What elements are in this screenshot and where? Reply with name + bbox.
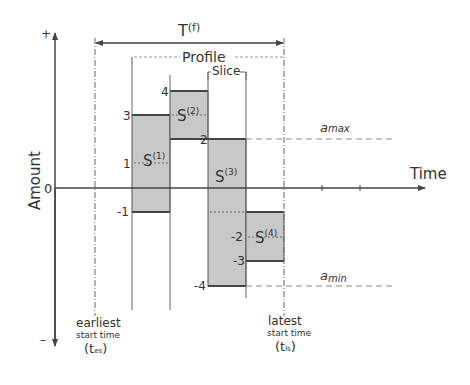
y-axis-label: Amount xyxy=(26,151,44,210)
zero-label: 0 xyxy=(44,181,52,196)
value-1: 1 xyxy=(123,157,131,171)
svg-text:latest: latest xyxy=(268,314,302,328)
value-3: 3 xyxy=(123,109,131,123)
slice-label: Slice xyxy=(212,64,240,78)
value-neg2: -2 xyxy=(231,230,243,244)
svg-text:(tes): (tes) xyxy=(84,341,107,356)
slice-bracket xyxy=(208,72,211,80)
a-min-label: amin xyxy=(320,268,347,284)
value-neg4: -4 xyxy=(194,279,206,293)
svg-text:start time: start time xyxy=(76,330,121,340)
y-plus: + xyxy=(41,27,51,41)
value-2: 2 xyxy=(200,133,208,147)
svg-text:earliest: earliest xyxy=(76,316,121,330)
tf-label: T(f) xyxy=(177,21,200,40)
y-minus: – xyxy=(40,333,46,347)
value-4: 4 xyxy=(161,85,169,99)
svg-text:(tls): (tls) xyxy=(275,339,296,354)
latest-label: latest start time (tls) xyxy=(267,314,312,354)
value-neg1: -1 xyxy=(117,205,129,219)
svg-text:start time: start time xyxy=(267,328,312,338)
profile-label: Profile xyxy=(182,49,226,65)
slice-profile-diagram: T(f) Profile Slice amax amin + – 0 Time … xyxy=(0,0,470,385)
a-max-label: amax xyxy=(320,120,350,135)
value-neg3: -3 xyxy=(233,254,245,268)
x-axis-label: Time xyxy=(409,165,447,183)
earliest-label: earliest start time (tes) xyxy=(76,316,121,356)
